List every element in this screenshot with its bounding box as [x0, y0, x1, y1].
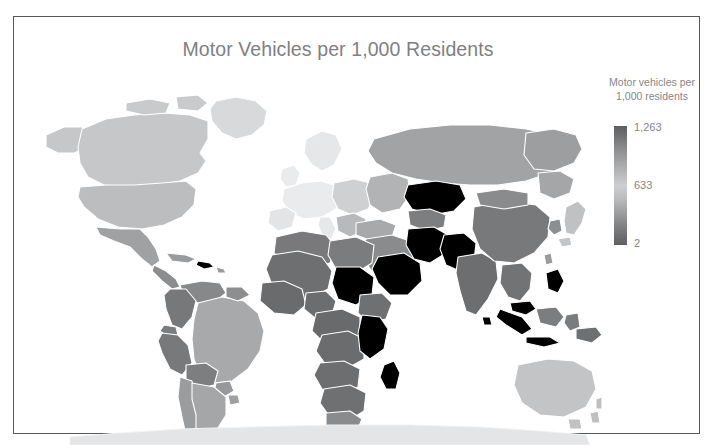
world-map-svg	[30, 77, 602, 445]
region-east-africa	[358, 315, 388, 359]
legend-title: Motor vehicles per 1,000 residents	[592, 75, 712, 103]
region-canada-arctic-2	[176, 95, 208, 111]
region-mongolia	[476, 189, 528, 209]
page-title: Motor Vehicles per 1,000 Residents	[28, 38, 648, 61]
region-russia-far-east	[538, 171, 574, 199]
region-cuba	[166, 253, 196, 263]
region-kazakhstan	[404, 181, 466, 215]
region-eastern-europe	[366, 173, 410, 213]
region-papua-new-guinea	[576, 327, 602, 343]
legend-title-line-1: Motor vehicles per	[592, 75, 712, 89]
slide-frame: Motor Vehicles per 1,000 Residents	[13, 16, 700, 434]
region-central-america	[152, 265, 180, 289]
region-india	[456, 253, 498, 315]
legend-tick-high: 1,263	[634, 121, 662, 133]
region-canada-arctic-1	[126, 99, 170, 115]
legend-gradient-bar	[614, 126, 627, 245]
region-indonesia-java	[526, 337, 560, 347]
region-sri-lanka	[482, 317, 492, 325]
region-antarctica	[70, 425, 590, 445]
legend-tick-mid: 633	[634, 179, 652, 191]
region-southeast-asia	[500, 263, 532, 301]
region-japan-south	[558, 237, 572, 247]
region-canada	[78, 113, 208, 187]
region-japan	[564, 201, 586, 235]
region-colombia	[164, 289, 196, 329]
region-new-zealand-north	[596, 397, 602, 409]
world-choropleth-map[interactable]	[30, 77, 602, 445]
legend-tick-low: 2	[634, 237, 640, 249]
region-uruguay	[228, 395, 240, 405]
region-united-states	[78, 181, 196, 229]
region-madagascar	[380, 361, 400, 389]
region-tasmania	[568, 419, 582, 429]
region-taiwan	[544, 253, 553, 265]
legend-title-line-2: 1,000 residents	[592, 89, 712, 103]
region-iberia	[268, 207, 296, 231]
region-philippines	[546, 269, 564, 293]
region-malaysia	[510, 301, 536, 315]
region-arabia	[372, 253, 422, 295]
region-russia-east	[524, 129, 582, 171]
region-mexico	[96, 227, 160, 267]
region-korea	[548, 219, 562, 235]
region-scandinavia	[304, 131, 342, 171]
region-australia	[514, 359, 596, 417]
region-borneo	[536, 307, 564, 327]
region-caribbean-isles	[216, 267, 226, 273]
region-greenland	[210, 97, 267, 139]
region-uk-ireland	[280, 165, 300, 187]
map-legend: Motor vehicles per 1,000 residents 1,263…	[592, 75, 712, 265]
region-hispaniola	[196, 261, 214, 269]
region-new-zealand-south	[590, 411, 600, 423]
